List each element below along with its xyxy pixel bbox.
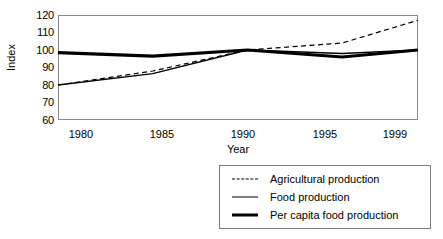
y-tick-label-110: 110 [28, 27, 54, 38]
y-tick-label-90: 90 [28, 62, 54, 73]
legend-entry-per-capita-food-production: Per capita food production [220, 206, 430, 224]
legend-label-food-production: Food production [270, 191, 350, 203]
x-axis-tick-labels: 1980 1985 1990 1995 1999 [58, 128, 418, 144]
line-chart: 120 110 100 90 80 70 60 Index 1980 1985 … [0, 0, 443, 239]
series-line-per-capita-food-production [58, 50, 418, 57]
y-tick-label-70: 70 [28, 97, 54, 108]
y-tick-label-120: 120 [28, 10, 54, 21]
thin-line-icon [230, 191, 260, 203]
y-tick-label-60: 60 [28, 115, 54, 126]
x-tick-label-1985: 1985 [132, 128, 192, 141]
thick-line-icon [230, 209, 260, 221]
x-tick-label-1995: 1995 [295, 128, 355, 141]
y-tick-label-80: 80 [28, 80, 54, 91]
x-tick-label-1999: 1999 [365, 128, 425, 141]
dashed-line-icon [230, 173, 260, 185]
chart-legend: Agricultural production Food production … [219, 165, 431, 229]
y-axis-tick-labels: 120 110 100 90 80 70 60 [26, 0, 54, 239]
legend-label-agricultural-production: Agricultural production [270, 173, 379, 185]
y-axis-title: Index [6, 34, 17, 82]
x-tick-label-1980: 1980 [51, 128, 111, 141]
x-axis-title: Year [58, 143, 418, 155]
legend-entry-agricultural-production: Agricultural production [220, 170, 430, 188]
x-tick-label-1990: 1990 [213, 128, 273, 141]
plot-series-layer [58, 15, 418, 120]
legend-label-per-capita-food-production: Per capita food production [270, 209, 398, 221]
legend-entry-food-production: Food production [220, 188, 430, 206]
y-tick-label-100: 100 [28, 45, 54, 56]
